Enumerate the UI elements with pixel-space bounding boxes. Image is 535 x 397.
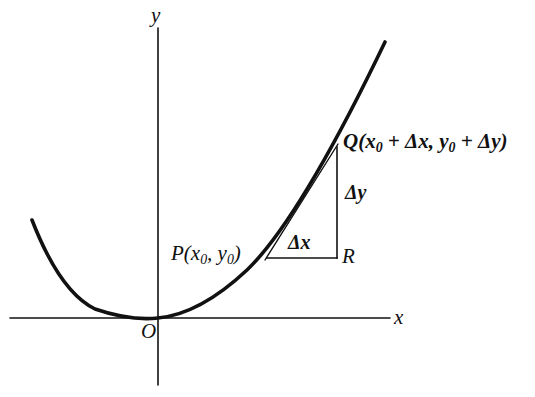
point-p-label: P(x0, y0) xyxy=(171,243,241,264)
point-q-prefix: Q(x xyxy=(343,129,376,153)
point-p-close: ) xyxy=(234,241,241,265)
point-q-label: Q(x0 + Δx, y0 + Δy) xyxy=(343,131,507,152)
point-q-sub-x: 0 xyxy=(376,140,383,155)
delta-x-label: Δx xyxy=(288,232,311,252)
point-q-sub-y: 0 xyxy=(449,140,456,155)
diagram-canvas xyxy=(0,0,535,397)
x-axis-label: x xyxy=(394,307,403,328)
point-q-plus-dy: + Δy xyxy=(456,129,501,153)
point-p-prefix: P(x xyxy=(171,241,200,265)
calculus-diagram: y x O P(x0, y0) Q(x0 + Δx, y0 + Δy) R Δx… xyxy=(0,0,535,397)
point-p-sub-y: 0 xyxy=(227,252,234,267)
point-r-label: R xyxy=(342,246,355,267)
origin-label: O xyxy=(141,321,156,342)
parabola-curve xyxy=(32,42,385,319)
point-q-plus-dx: + Δx, y xyxy=(383,129,449,153)
y-axis-label: y xyxy=(151,5,160,26)
point-p-mid: , y xyxy=(207,241,227,265)
point-q-close: ) xyxy=(500,129,507,153)
delta-y-label: Δy xyxy=(345,182,366,202)
point-p-sub-x: 0 xyxy=(200,252,207,267)
